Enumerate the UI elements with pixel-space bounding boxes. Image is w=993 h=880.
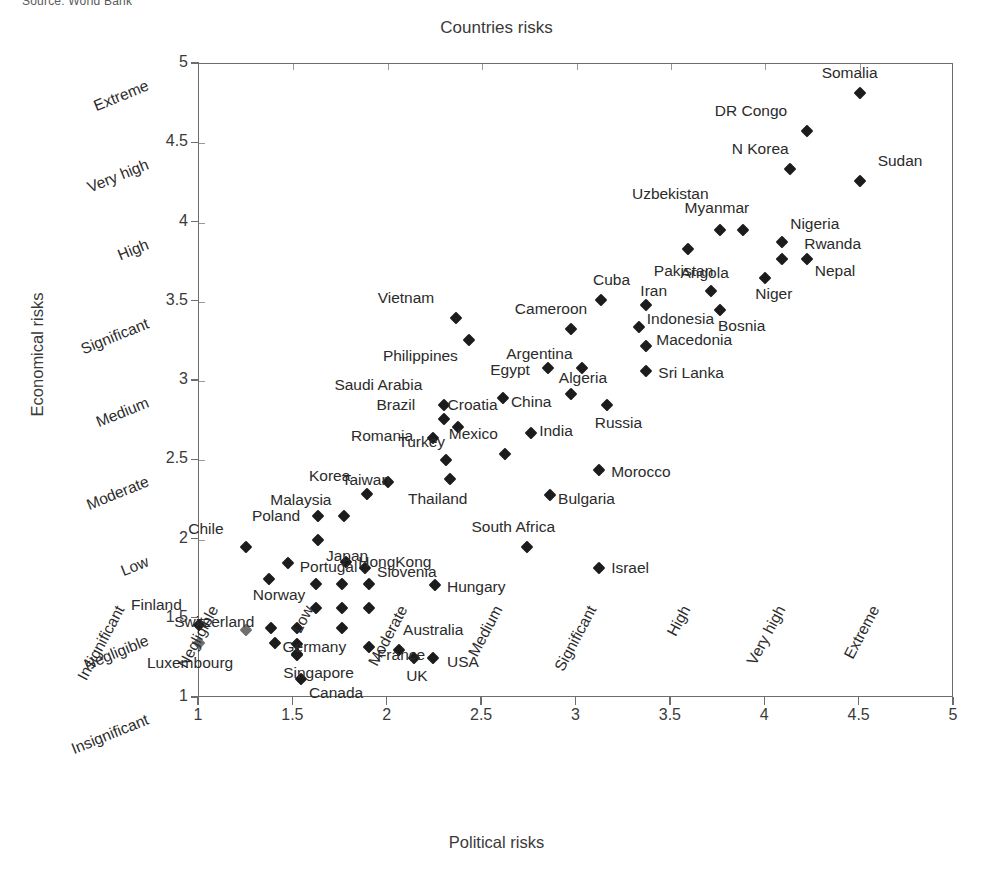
point-label: Australia	[403, 622, 463, 638]
point-label: Portugal	[300, 559, 358, 575]
y-tick-mark	[191, 142, 199, 143]
x-tick-mark	[292, 697, 293, 705]
point-label: Sri Lanka	[658, 365, 723, 381]
y-tick-label: 2.5	[142, 450, 188, 466]
point-label: N Korea	[732, 141, 789, 157]
point-label: Thailand	[408, 491, 467, 507]
point-label: Singapore	[283, 665, 354, 681]
point-label: Iran	[640, 283, 667, 299]
point-label: Indonesia	[647, 311, 714, 327]
point-label: Bulgaria	[558, 491, 615, 507]
y-tick-mark	[191, 62, 199, 63]
point-label: Croatia	[448, 397, 498, 413]
point-label: Sudan	[878, 153, 923, 169]
x-tick-mark	[386, 697, 387, 705]
point-label: UK	[406, 668, 428, 684]
point-label: Philippines	[383, 348, 458, 364]
point-label: Norway	[253, 587, 306, 603]
x-tick-mark	[952, 697, 953, 705]
y-tick-mark	[191, 300, 199, 301]
y-category-label: Insignificant	[0, 711, 151, 833]
y-tick-label: 2	[142, 530, 188, 546]
point-label: DR Congo	[715, 103, 787, 119]
point-label: Turkey	[398, 434, 445, 450]
point-label: Angola	[681, 265, 729, 281]
y-tick-label: 1.5	[142, 609, 188, 625]
point-label: Mexico	[449, 426, 498, 442]
point-label: Nepal	[815, 263, 856, 279]
x-tick-label: 3.5	[640, 706, 700, 724]
plot-area: SomaliaDR CongoN KoreaSudanMyanmarUzbeki…	[198, 63, 953, 697]
x-tick-label: 1.5	[262, 706, 322, 724]
point-label: Korea	[309, 468, 350, 484]
point-label: Egypt	[490, 362, 530, 378]
x-tick-mark	[669, 697, 670, 705]
x-tick-mark	[764, 697, 765, 705]
y-tick-mark	[191, 379, 199, 380]
point-label: Russia	[595, 415, 642, 431]
point-label: Macedonia	[656, 332, 732, 348]
x-axis-title: Political risks	[0, 833, 993, 852]
point-label: China	[511, 394, 552, 410]
y-tick-label: 4	[142, 213, 188, 229]
point-label: Morocco	[611, 464, 670, 480]
x-tick-label: 4.5	[829, 706, 889, 724]
point-label: Hungary	[447, 579, 506, 595]
x-tick-mark	[197, 697, 198, 705]
y-tick-label: 3	[142, 371, 188, 387]
x-tick-label: 4	[734, 706, 794, 724]
point-label: Somalia	[822, 65, 878, 81]
point-label: Uzbekistan	[632, 186, 709, 202]
x-tick-mark	[858, 697, 859, 705]
point-label: India	[539, 423, 573, 439]
point-label: Chile	[188, 521, 223, 537]
point-label: Saudi Arabia	[334, 377, 422, 393]
x-tick-label: 3	[546, 706, 606, 724]
point-label: Malaysia	[270, 492, 331, 508]
source-note: Source: World Bank	[22, 0, 132, 8]
point-label: Argentina	[506, 346, 572, 362]
y-tick-label: 5	[142, 54, 188, 70]
y-tick-mark	[191, 459, 199, 460]
point-label: Vietnam	[378, 290, 435, 306]
point-label: Niger	[755, 286, 792, 302]
point-labels: SomaliaDR CongoN KoreaSudanMyanmarUzbeki…	[199, 64, 952, 696]
point-label: Myanmar	[685, 200, 750, 216]
x-tick-mark	[575, 697, 576, 705]
chart-title: Countries risks	[0, 18, 993, 38]
y-tick-label: 3.5	[142, 292, 188, 308]
point-label: Rwanda	[804, 236, 861, 252]
point-label: Brazil	[376, 397, 415, 413]
x-tick-mark	[480, 697, 481, 705]
x-tick-label: 5	[923, 706, 983, 724]
point-label: Algeria	[559, 370, 607, 386]
y-tick-label: 4.5	[142, 133, 188, 149]
point-label: Israel	[611, 560, 649, 576]
point-label: Poland	[252, 508, 300, 524]
x-tick-label: 1	[168, 706, 228, 724]
point-label: South Africa	[471, 519, 555, 535]
point-label: Slovenia	[377, 564, 436, 580]
point-label: Nigeria	[790, 216, 839, 232]
x-tick-label: 2.5	[451, 706, 511, 724]
point-label: Cameroon	[515, 301, 587, 317]
y-tick-mark	[191, 221, 199, 222]
x-tick-label: 2	[357, 706, 417, 724]
point-label: Cuba	[593, 272, 630, 288]
y-tick-mark	[191, 538, 199, 539]
